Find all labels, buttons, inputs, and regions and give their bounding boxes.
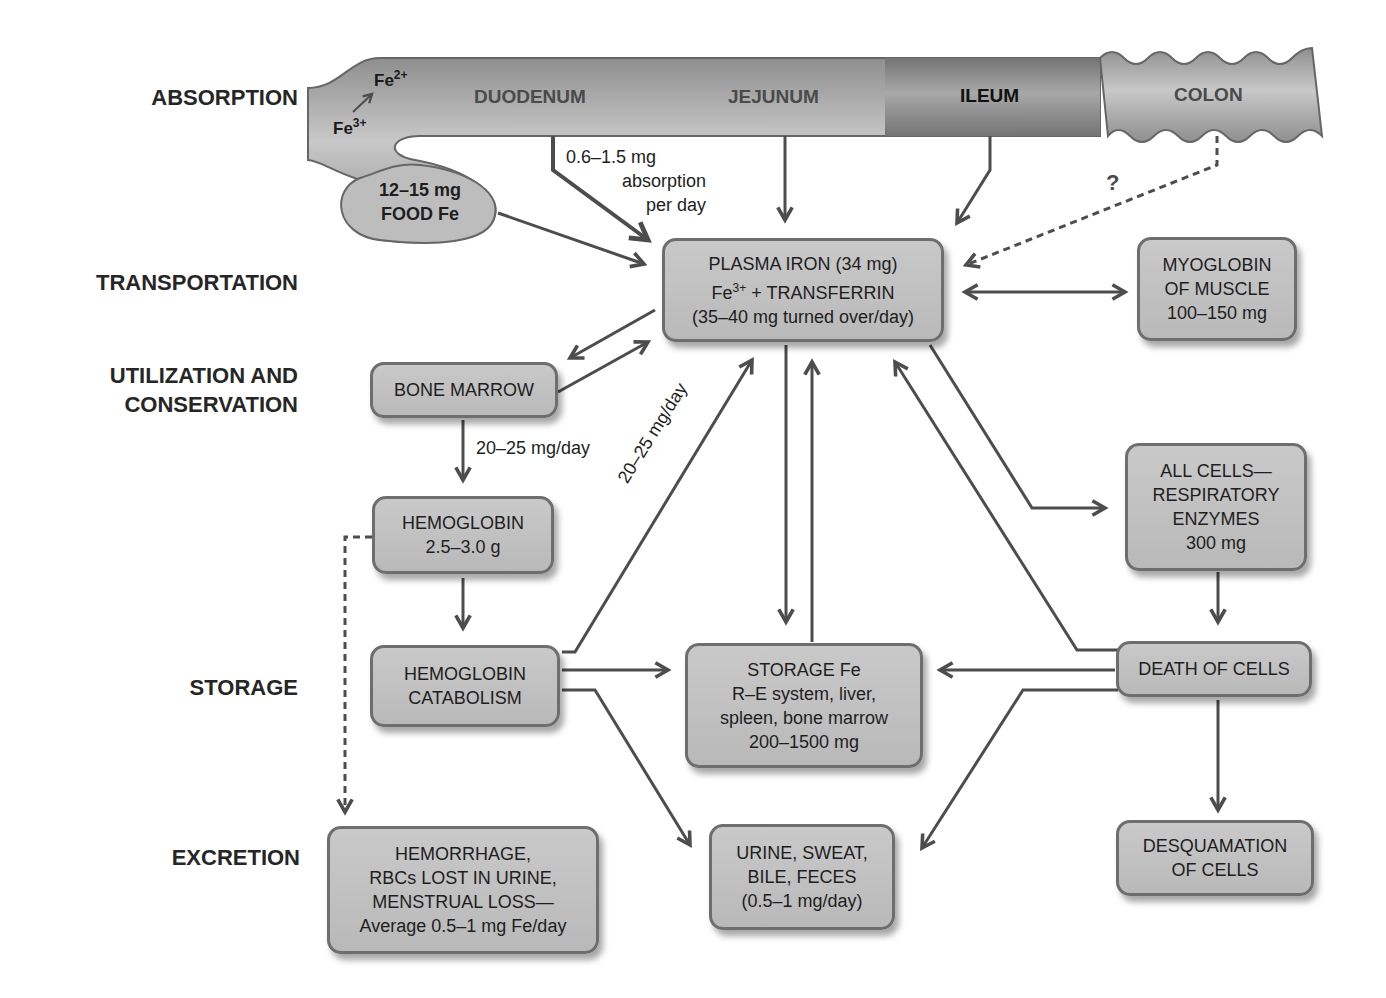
fe3-label: Fe3+	[333, 116, 367, 139]
storage-line2: R–E system, liver,	[732, 682, 876, 706]
urine-line2: BILE, FECES	[747, 865, 856, 889]
myoglobin-line2: OF MUSCLE	[1164, 277, 1269, 301]
storage-title: STORAGE Fe	[747, 658, 861, 682]
plasma-iron-box: PLASMA IRON (34 mg) Fe3+ + TRANSFERRIN (…	[662, 238, 944, 342]
absorption-period: per day	[566, 193, 706, 217]
catabolism-line2: CATABOLISM	[408, 686, 521, 710]
hemoglobin-catabolism-box: HEMOGLOBIN CATABOLISM	[370, 645, 560, 727]
stage-utilization: UTILIZATION AND CONSERVATION	[18, 361, 298, 419]
storage-amount: 200–1500 mg	[749, 730, 859, 754]
absorption-word: absorption	[566, 169, 706, 193]
desquamation-box: DESQUAMATION OF CELLS	[1116, 820, 1314, 896]
bone-marrow-label: BONE MARROW	[394, 378, 534, 402]
plasma-title: PLASMA IRON (34 mg)	[708, 252, 897, 276]
desquamation-line1: DESQUAMATION	[1143, 834, 1288, 858]
segment-ileum: ILEUM	[960, 85, 1019, 107]
fe3-text: Fe	[333, 119, 353, 138]
hemorrhage-box: HEMORRHAGE, RBCs LOST IN URINE, MENSTRUA…	[327, 826, 599, 954]
all-cells-amount: 300 mg	[1186, 531, 1246, 555]
hemorrhage-line2: RBCs LOST IN URINE,	[369, 866, 557, 890]
desquamation-line2: OF CELLS	[1171, 858, 1258, 882]
absorption-amount: 0.6–1.5 mg	[566, 145, 706, 169]
stage-absorption: ABSORPTION	[18, 83, 298, 112]
hemorrhage-average: Average 0.5–1 mg Fe/day	[360, 914, 567, 938]
bone-marrow-box: BONE MARROW	[370, 362, 558, 418]
all-cells-box: ALL CELLS— RESPIRATORY ENZYMES 300 mg	[1125, 443, 1307, 571]
fe2-label: Fe2+	[374, 68, 408, 91]
food-iron-label: 12–15 mg FOOD Fe	[374, 178, 466, 226]
death-of-cells-label: DEATH OF CELLS	[1138, 657, 1290, 681]
colon-question-mark: ?	[1106, 170, 1119, 196]
segment-jejunum: JEJUNUM	[728, 86, 819, 108]
plasma-fe: Fe	[712, 283, 733, 303]
food-fe: FOOD Fe	[374, 202, 466, 226]
plasma-transferrin: Fe3+ + TRANSFERRIN	[712, 276, 895, 305]
hemoglobin-amount: 2.5–3.0 g	[425, 535, 500, 559]
food-amount: 12–15 mg	[374, 178, 466, 202]
myoglobin-box: MYOGLOBIN OF MUSCLE 100–150 mg	[1137, 237, 1297, 341]
myoglobin-amount: 100–150 mg	[1167, 301, 1267, 325]
urine-amount: (0.5–1 mg/day)	[741, 889, 862, 913]
absorption-note: 0.6–1.5 mg absorption per day	[566, 145, 706, 217]
stage-transportation: TRANSPORTATION	[18, 268, 298, 297]
storage-line3: spleen, bone marrow	[720, 706, 888, 730]
fe2-text: Fe	[374, 71, 394, 90]
stage-excretion: EXCRETION	[20, 843, 300, 872]
urine-line1: URINE, SWEAT,	[736, 841, 868, 865]
hemorrhage-line3: MENSTRUAL LOSS—	[372, 890, 553, 914]
segment-colon: COLON	[1174, 84, 1243, 106]
plasma-transferrin-text: + TRANSFERRIN	[746, 283, 894, 303]
plasma-fe-charge: 3+	[733, 281, 747, 295]
all-cells-line3: ENZYMES	[1172, 507, 1259, 531]
plasma-turnover: (35–40 mg turned over/day)	[692, 305, 914, 329]
hemorrhage-line1: HEMORRHAGE,	[395, 842, 531, 866]
all-cells-line1: ALL CELLS—	[1160, 459, 1271, 483]
stage-utilization-line2: CONSERVATION	[18, 390, 298, 419]
marrow-rate-note: 20–25 mg/day	[476, 436, 590, 460]
storage-fe-box: STORAGE Fe R–E system, liver, spleen, bo…	[685, 643, 923, 768]
hemoglobin-box: HEMOGLOBIN 2.5–3.0 g	[372, 496, 554, 574]
hemoglobin-label: HEMOGLOBIN	[402, 511, 524, 535]
all-cells-line2: RESPIRATORY	[1152, 483, 1279, 507]
stage-storage: STORAGE	[18, 673, 298, 702]
catabolism-line1: HEMOGLOBIN	[404, 662, 526, 686]
segment-duodenum: DUODENUM	[474, 86, 586, 108]
fe3-charge: 3+	[353, 116, 367, 130]
urine-sweat-box: URINE, SWEAT, BILE, FECES (0.5–1 mg/day)	[709, 824, 895, 930]
fe2-charge: 2+	[394, 68, 408, 82]
myoglobin-line1: MYOGLOBIN	[1162, 253, 1271, 277]
stage-utilization-line1: UTILIZATION AND	[18, 361, 298, 390]
death-of-cells-box: DEATH OF CELLS	[1116, 641, 1312, 697]
